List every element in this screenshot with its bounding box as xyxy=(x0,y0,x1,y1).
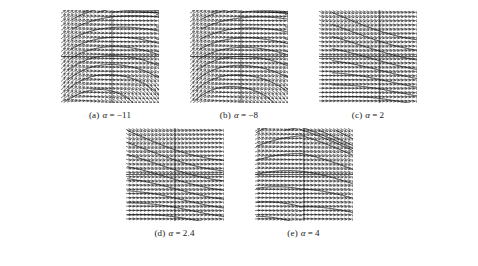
panel-c: (c)α=2 xyxy=(319,10,417,121)
vector-field-plot-e xyxy=(255,128,353,221)
quiver-svg-a xyxy=(61,10,159,103)
caption-b-symbol: α xyxy=(234,110,239,120)
caption-b-label: (b) xyxy=(220,110,231,120)
caption-c-eq: = xyxy=(372,110,377,120)
figure-panel-grid: (a)α=−11 (b)α=−8 (c)α=2 xyxy=(0,0,478,266)
caption-e: (e)α=4 xyxy=(287,228,320,239)
caption-a: (a)α=−11 xyxy=(89,110,131,121)
vector-field-plot-a xyxy=(61,10,159,103)
caption-d-label: (d) xyxy=(154,228,165,238)
caption-d-value: 2.4 xyxy=(183,228,195,238)
caption-c: (c)α=2 xyxy=(352,110,385,121)
vector-field-plot-b xyxy=(190,10,288,103)
caption-d-eq: = xyxy=(175,228,180,238)
caption-b-eq: = xyxy=(241,110,246,120)
caption-a-value: −11 xyxy=(117,110,131,120)
caption-e-symbol: α xyxy=(301,228,306,238)
caption-c-label: (c) xyxy=(352,110,363,120)
caption-a-eq: = xyxy=(109,110,114,120)
caption-e-eq: = xyxy=(308,228,313,238)
quiver-svg-e xyxy=(255,128,353,221)
caption-e-value: 4 xyxy=(315,228,320,238)
figure-row-top: (a)α=−11 (b)α=−8 (c)α=2 xyxy=(0,0,478,121)
caption-d: (d)α=2.4 xyxy=(154,228,194,239)
caption-a-label: (a) xyxy=(89,110,100,120)
caption-b-value: −8 xyxy=(248,110,258,120)
quiver-svg-d xyxy=(126,128,224,221)
figure-row-bottom: (d)α=2.4 (e)α=4 xyxy=(0,121,478,239)
caption-c-value: 2 xyxy=(380,110,385,120)
quiver-svg-c xyxy=(319,10,417,103)
panel-d: (d)α=2.4 xyxy=(126,128,224,239)
vector-field-plot-c xyxy=(319,10,417,103)
panel-a: (a)α=−11 xyxy=(61,10,159,121)
vector-field-plot-d xyxy=(126,128,224,221)
quiver-svg-b xyxy=(190,10,288,103)
caption-c-symbol: α xyxy=(365,110,370,120)
caption-e-label: (e) xyxy=(287,228,298,238)
caption-d-symbol: α xyxy=(169,228,174,238)
caption-b: (b)α=−8 xyxy=(220,110,258,121)
panel-b: (b)α=−8 xyxy=(190,10,288,121)
panel-e: (e)α=4 xyxy=(255,128,353,239)
caption-a-symbol: α xyxy=(103,110,108,120)
